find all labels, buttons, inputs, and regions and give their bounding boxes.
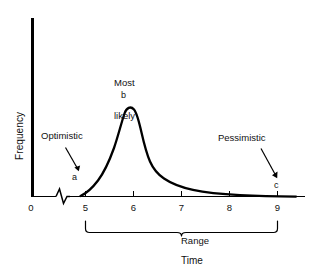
pessimistic-arrow-icon (261, 149, 278, 179)
x-axis-tick-label-5: 5 (78, 203, 94, 214)
x-axis-tick-label-7: 7 (174, 203, 190, 214)
optimistic-arrow-icon (66, 148, 81, 172)
point-label-b: b (121, 90, 126, 100)
x-axis-tick-label-9: 9 (270, 203, 286, 214)
x-axis-tick-label-6: 6 (126, 203, 142, 214)
x-axis-tick-label-8: 8 (222, 203, 238, 214)
frequency-distribution-figure: Frequency 0 5 6 7 8 9 Most likely Optimi… (0, 0, 312, 270)
distribution-curve (81, 107, 297, 196)
range-brace-icon (86, 221, 278, 236)
optimistic-annotation: Optimistic (41, 131, 83, 142)
most-likely-line-1: Most (114, 78, 135, 89)
pessimistic-annotation: Pessimistic (218, 133, 266, 144)
point-label-a: a (72, 172, 77, 182)
x-axis-break-icon (56, 189, 70, 204)
x-axis-origin-label: 0 (23, 203, 39, 214)
y-axis-title: Frequency (14, 112, 26, 160)
point-label-c: c (274, 180, 279, 190)
most-likely-line-2: likely (114, 111, 135, 122)
